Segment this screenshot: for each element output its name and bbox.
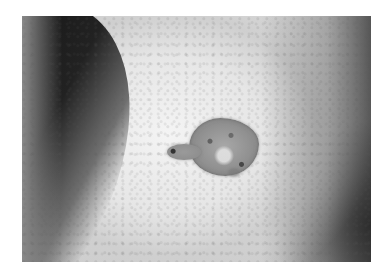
lesion-body [189, 118, 259, 176]
small-spot [228, 168, 240, 177]
lesion [167, 118, 259, 176]
lesion-extension [167, 144, 201, 160]
skin-lesion-photo [22, 16, 371, 262]
